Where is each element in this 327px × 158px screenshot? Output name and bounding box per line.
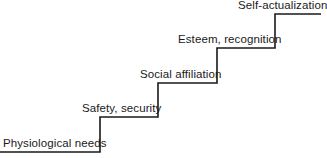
step-label-self-actualization: Self-actualization [238,0,327,12]
step-label-safety: Safety, security [82,103,161,115]
step-label-social: Social affiliation [140,69,222,81]
step-label-physiological: Physiological needs [3,138,107,150]
step-label-esteem: Esteem, recognition [178,34,282,46]
